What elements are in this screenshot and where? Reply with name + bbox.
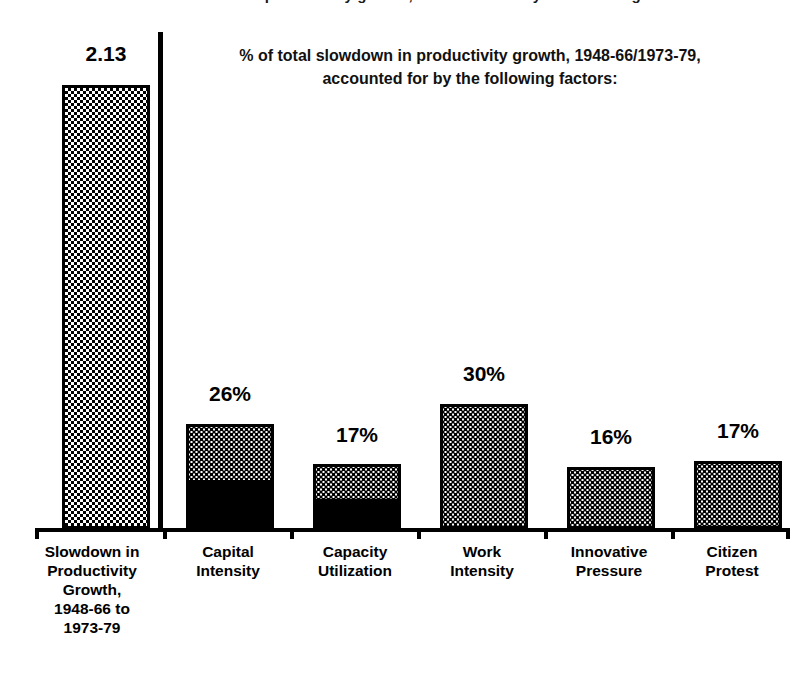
value-label-slowdown: 2.13 <box>62 42 150 66</box>
bar-innovative-pressure[interactable] <box>567 467 655 529</box>
bar-segment-lower <box>316 499 398 526</box>
x-label-capacity-utilization: Capacity Utilization <box>292 542 418 580</box>
bar-work-intensity[interactable] <box>440 404 528 529</box>
x-label-line: Intensity <box>420 561 544 580</box>
x-label-line: Citizen <box>676 542 788 561</box>
bar-capacity-utilization[interactable] <box>313 464 401 529</box>
bar-segment-total <box>570 470 652 526</box>
value-label-capital-intensity: 26% <box>186 382 274 406</box>
chart-annotation: % of total slowdown in productivity grow… <box>190 44 750 90</box>
x-label-line: Capacity <box>292 542 418 561</box>
x-label-line: Work <box>420 542 544 561</box>
value-label-work-intensity: 30% <box>440 362 528 386</box>
bar-segment-upper <box>316 467 398 499</box>
x-label-line: Slowdown in <box>28 542 156 561</box>
annotation-line-2: accounted for by the following factors: <box>190 67 750 90</box>
scale-divider <box>158 32 163 529</box>
value-label-citizen-protest: 17% <box>694 419 782 443</box>
x-label-work-intensity: Work Intensity <box>420 542 544 580</box>
x-axis-line <box>35 528 790 532</box>
x-label-line: 1973-79 <box>28 618 156 637</box>
x-label-innovative-pressure: Innovative Pressure <box>546 542 672 580</box>
x-label-line: Pressure <box>546 561 672 580</box>
x-axis-tick <box>163 528 167 539</box>
bar-chart: % of total slowdown in productivity grow… <box>0 0 809 679</box>
bar-segment-total <box>697 464 779 526</box>
x-label-line: Protest <box>676 561 788 580</box>
x-label-line: Productivity <box>28 561 156 580</box>
value-label-innovative-pressure: 16% <box>567 425 655 449</box>
x-label-capital-intensity: Capital Intensity <box>166 542 290 580</box>
bar-segment-total <box>443 407 525 526</box>
bar-citizen-protest[interactable] <box>694 461 782 529</box>
x-label-line: Growth, <box>28 580 156 599</box>
annotation-line-1: % of total slowdown in productivity grow… <box>239 47 700 64</box>
x-axis-tick <box>544 528 548 539</box>
x-axis-tick <box>786 528 790 539</box>
bar-segment-upper <box>189 427 271 480</box>
bar-capital-intensity[interactable] <box>186 424 274 529</box>
x-label-slowdown-in-productivity-growth: Slowdown in Productivity Growth, 1948-66… <box>28 542 156 637</box>
x-axis-tick <box>671 528 675 539</box>
x-label-citizen-protest: Citizen Protest <box>676 542 788 580</box>
bar-segment-total <box>65 88 147 526</box>
x-axis-tick <box>417 528 421 539</box>
x-label-line: Innovative <box>546 542 672 561</box>
x-label-line: 1948-66 to <box>28 599 156 618</box>
x-label-line: Utilization <box>292 561 418 580</box>
value-label-capacity-utilization: 17% <box>313 423 401 447</box>
x-axis-tick <box>290 528 294 539</box>
x-label-line: Intensity <box>166 561 290 580</box>
bar-slowdown-in-productivity-growth[interactable] <box>62 85 150 529</box>
bar-segment-lower <box>189 480 271 526</box>
x-axis-tick <box>35 528 39 539</box>
x-label-line: Capital <box>166 542 290 561</box>
